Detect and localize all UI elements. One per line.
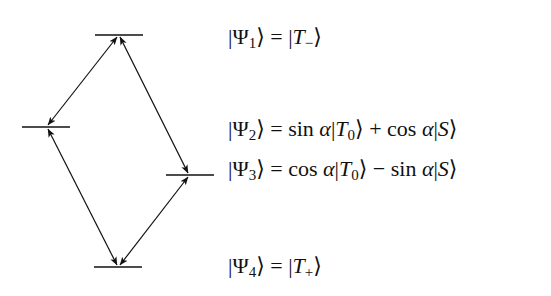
transition-arrow-1-3: [120, 37, 188, 173]
equation-psi4: |Ψ4⟩ = |T+⟩: [228, 255, 322, 277]
transition-arrow-3-4: [120, 177, 188, 265]
equation-psi2: |Ψ2⟩ = sin α|T0⟩ + cos α|S⟩: [228, 118, 457, 140]
equation-psi1: |Ψ1⟩ = |T−⟩: [228, 26, 322, 48]
transition-arrow-2-4: [48, 129, 117, 265]
equation-psi3: |Ψ3⟩ = cos α|T0⟩ − sin α|S⟩: [228, 158, 457, 180]
transition-arrow-1-2: [48, 37, 117, 125]
